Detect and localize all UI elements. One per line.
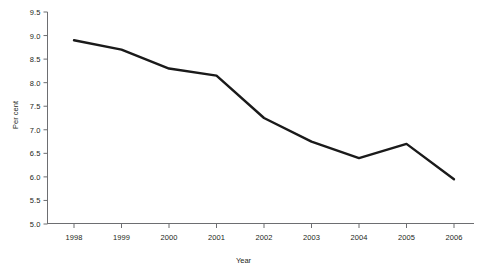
x-axis-tick-label: 2001: [208, 233, 225, 242]
y-axis-tick-label: 8.0: [0, 78, 41, 87]
y-axis-tick-label: 8.5: [0, 55, 41, 64]
y-axis-tick-label: 9.0: [0, 31, 41, 40]
line-chart: 5.05.56.06.57.07.58.08.59.09.5 199819992…: [0, 0, 487, 277]
x-axis-tick-label: 2004: [350, 233, 367, 242]
x-axis-tick-label: 1999: [113, 233, 130, 242]
axis-lines: [48, 12, 475, 224]
y-axis-tick-label: 6.5: [0, 149, 41, 158]
x-axis-ticks: [74, 224, 454, 228]
y-axis-tick-label: 6.0: [0, 172, 41, 181]
x-axis-tick-label: 2003: [303, 233, 320, 242]
y-axis-tick-label: 5.5: [0, 196, 41, 205]
data-series-line: [74, 40, 454, 179]
x-axis-tick-label: 2000: [160, 233, 177, 242]
y-axis-tick-label: 9.5: [0, 8, 41, 17]
y-axis-tick-label: 5.0: [0, 220, 41, 229]
y-axis-title: Per cent: [11, 101, 20, 129]
x-axis-tick-label: 2002: [255, 233, 272, 242]
x-axis-title: Year: [0, 256, 487, 265]
x-axis-tick-label: 2005: [398, 233, 415, 242]
x-axis-tick-label: 1998: [65, 233, 82, 242]
x-axis-tick-label: 2006: [445, 233, 462, 242]
y-axis-ticks: [44, 12, 48, 224]
